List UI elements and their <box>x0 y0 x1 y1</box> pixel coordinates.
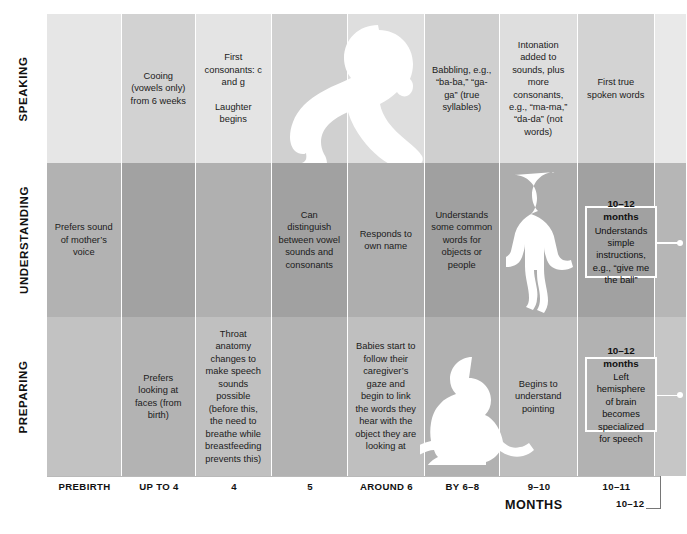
cell-speaking-around6 <box>348 14 424 163</box>
cell-speaking-prebirth <box>47 14 121 163</box>
callout-understanding-leader-dot <box>677 240 683 246</box>
axis-line <box>47 476 660 477</box>
row-label-understanding: UNDERSTANDING <box>0 163 47 317</box>
callout-understanding-body: Understands simple instructions, e.g., “… <box>592 225 650 287</box>
axis-label-around6: AROUND 6 <box>348 481 425 492</box>
axis-label-four: 4 <box>196 481 272 492</box>
cell-speaking-nine_ten: Intonation added to sounds, plus more co… <box>500 14 577 163</box>
cell-understanding-by6to8: Understands some common words for object… <box>425 163 499 317</box>
row-label-preparing: PREPARING <box>0 317 47 476</box>
cell-preparing-nine_ten: Begins to understand pointing <box>500 317 577 476</box>
callout-preparing-leader-dot <box>677 392 683 398</box>
row-label-understanding-text: UNDERSTANDING <box>18 186 30 294</box>
cell-text-speaking-nine_ten: Intonation added to sounds, plus more co… <box>506 39 571 139</box>
cell-preparing-upto4: Prefers looking at faces (from birth) <box>122 317 195 476</box>
cell-text-speaking-upto4: Cooing (vowels only) from 6 weeks <box>128 70 189 107</box>
cell-preparing-four: Throat anatomy changes to make speech so… <box>196 317 271 476</box>
infographic-root: SPEAKING UNDERSTANDING PREPARING Cooing … <box>0 0 687 534</box>
cell-text-speaking-ten_eleven: First true spoken words <box>584 76 648 101</box>
axis-label-nine_ten: 9–10 <box>500 481 578 492</box>
cell-speaking-ten_eleven: First true spoken words <box>578 14 654 163</box>
callout-understanding-leader-line <box>657 242 679 244</box>
cell-preparing-around6: Babies start to follow their caregiver’s… <box>348 317 424 476</box>
cell-understanding-nine_ten <box>500 163 577 317</box>
cell-text-preparing-nine_ten: Begins to understand pointing <box>506 378 571 415</box>
row-label-speaking-text: SPEAKING <box>18 56 30 121</box>
cell-text-understanding-five: Can distinguish between vowel sounds and… <box>278 209 341 271</box>
callout-preparing-body: Left hemisphere of brain becomes special… <box>592 371 650 446</box>
cell-understanding-around6: Responds to own name <box>348 163 424 317</box>
axis-label-by6to8: BY 6–8 <box>425 481 500 492</box>
cell-understanding-upto4 <box>122 163 195 317</box>
cell-understanding-five: Can distinguish between vowel sounds and… <box>272 163 347 317</box>
cell-speaking-ten_twelve <box>655 14 686 163</box>
cell-understanding-four <box>196 163 271 317</box>
row-label-preparing-text: PREPARING <box>18 360 30 433</box>
axis-title-months: MONTHS <box>505 498 563 512</box>
cell-text-understanding-around6: Responds to own name <box>354 228 418 253</box>
cell-preparing-five <box>272 317 347 476</box>
cell-understanding-prebirth: Prefers sound of mother’s voice <box>47 163 121 317</box>
axis-bracket-10-12 <box>600 476 672 512</box>
callout-preparing-title: 10–12 months <box>592 344 650 370</box>
row-label-speaking: SPEAKING <box>0 14 47 163</box>
cell-text-understanding-by6to8: Understands some common words for object… <box>431 209 493 271</box>
cell-text-speaking-four: First consonants: c and gLaughter begins <box>202 51 265 126</box>
cell-text-speaking-by6to8: Babbling, e.g., “ba-ba,” “ga-ga” (true s… <box>431 64 493 114</box>
axis-label-prebirth: PREBIRTH <box>47 481 122 492</box>
cell-speaking-four: First consonants: c and gLaughter begins <box>196 14 271 163</box>
callout-preparing: 10–12 monthsLeft hemisphere of brain bec… <box>585 357 657 432</box>
cell-text-understanding-prebirth: Prefers sound of mother’s voice <box>53 221 115 258</box>
cell-text-preparing-around6: Babies start to follow their caregiver’s… <box>354 340 418 452</box>
cell-preparing-prebirth <box>47 317 121 476</box>
cell-preparing-by6to8 <box>425 317 499 476</box>
axis-label-upto4: UP TO 4 <box>122 481 196 492</box>
cell-text-preparing-four: Throat anatomy changes to make speech so… <box>202 328 265 465</box>
cell-speaking-upto4: Cooing (vowels only) from 6 weeks <box>122 14 195 163</box>
callout-understanding: 10–12 monthsUnderstands simple instructi… <box>585 206 657 278</box>
cell-text-preparing-upto4: Prefers looking at faces (from birth) <box>128 372 189 422</box>
callout-understanding-title: 10–12 months <box>592 197 650 223</box>
cell-speaking-by6to8: Babbling, e.g., “ba-ba,” “ga-ga” (true s… <box>425 14 499 163</box>
callout-preparing-leader-line <box>657 395 679 397</box>
cell-speaking-five <box>272 14 347 163</box>
axis-label-five: 5 <box>272 481 348 492</box>
